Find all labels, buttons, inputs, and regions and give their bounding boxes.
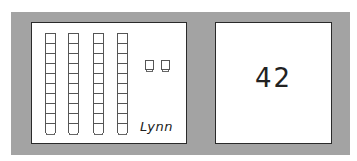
student-name: Lynn bbox=[140, 119, 173, 134]
rod-unit bbox=[45, 103, 56, 113]
rod-unit bbox=[45, 53, 56, 63]
rod-unit bbox=[68, 63, 79, 73]
rod-unit bbox=[68, 113, 79, 123]
rod-unit bbox=[45, 93, 56, 103]
rod-unit bbox=[117, 73, 128, 83]
rod-unit bbox=[93, 73, 104, 83]
rod-unit bbox=[68, 33, 79, 43]
rod-base bbox=[46, 133, 55, 135]
rod-unit bbox=[93, 123, 104, 133]
rod-base bbox=[69, 133, 78, 135]
rod-unit bbox=[117, 123, 128, 133]
rod-base bbox=[94, 133, 103, 135]
rod-unit bbox=[93, 83, 104, 93]
rod-unit bbox=[68, 93, 79, 103]
rod-unit bbox=[117, 103, 128, 113]
rod-unit bbox=[68, 53, 79, 63]
rod-unit bbox=[68, 83, 79, 93]
rod-unit bbox=[68, 103, 79, 113]
rod-unit bbox=[45, 73, 56, 83]
rod-unit bbox=[93, 43, 104, 53]
rod-unit bbox=[68, 123, 79, 133]
ones-cube bbox=[161, 60, 170, 73]
rod-unit bbox=[117, 93, 128, 103]
cube-base bbox=[146, 70, 153, 72]
cube-face bbox=[145, 60, 154, 70]
number-card[interactable]: 42 bbox=[215, 22, 332, 144]
ones-cube bbox=[145, 60, 154, 73]
rod-unit bbox=[45, 63, 56, 73]
rod-base bbox=[118, 133, 127, 135]
rod-unit bbox=[45, 83, 56, 93]
rod-unit bbox=[117, 53, 128, 63]
rod-unit bbox=[45, 113, 56, 123]
rod-unit bbox=[45, 123, 56, 133]
rod-unit bbox=[117, 63, 128, 73]
rod-unit bbox=[93, 33, 104, 43]
tens-rod bbox=[93, 33, 104, 135]
number-label: 42 bbox=[216, 63, 331, 93]
rod-unit bbox=[117, 33, 128, 43]
cube-face bbox=[161, 60, 170, 70]
rod-unit bbox=[45, 33, 56, 43]
rod-unit bbox=[93, 53, 104, 63]
tens-rod bbox=[68, 33, 79, 135]
rod-unit bbox=[117, 43, 128, 53]
rod-unit bbox=[93, 113, 104, 123]
rod-unit bbox=[117, 113, 128, 123]
rod-unit bbox=[93, 93, 104, 103]
cube-base bbox=[162, 70, 169, 72]
rod-unit bbox=[68, 43, 79, 53]
base-ten-blocks-card[interactable]: Lynn bbox=[31, 22, 187, 144]
rod-unit bbox=[117, 83, 128, 93]
rod-unit bbox=[68, 73, 79, 83]
tens-rod bbox=[45, 33, 56, 135]
rod-unit bbox=[93, 63, 104, 73]
rod-unit bbox=[93, 103, 104, 113]
tens-rod bbox=[117, 33, 128, 135]
rod-unit bbox=[45, 43, 56, 53]
